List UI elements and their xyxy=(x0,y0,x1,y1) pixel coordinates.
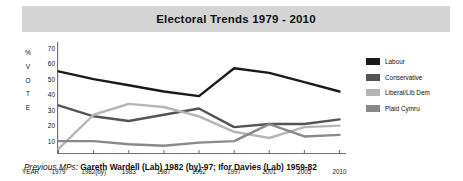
page-title: Electoral Trends 1979 - 2010 xyxy=(156,13,316,25)
legend-label: Plaid Cymru xyxy=(385,105,420,112)
plot-area xyxy=(57,42,346,162)
x-tick-label: 2010 xyxy=(332,168,346,176)
axis-lines xyxy=(57,42,346,154)
y-axis-caption-letter: O xyxy=(22,74,34,88)
y-axis-caption-letter: T xyxy=(22,87,34,101)
y-tick-label: 50 xyxy=(48,76,55,83)
legend-swatch xyxy=(366,74,380,81)
legend-swatch xyxy=(366,89,380,96)
y-axis-caption: %VOTE xyxy=(22,46,34,115)
series-line-plaid-cymru xyxy=(59,124,340,146)
chart-legend: LabourConservativeLiberal/Lib DemPlaid C… xyxy=(366,54,462,116)
y-tick-label: 20 xyxy=(48,122,55,129)
y-tick-label: 30 xyxy=(48,107,55,114)
legend-item: Conservative xyxy=(366,70,462,86)
y-axis-caption-letter: V xyxy=(22,60,34,74)
series-line-labour xyxy=(59,68,340,96)
legend-swatch xyxy=(366,58,380,65)
footnote: Previous MPs: Gareth Wardell (Lab) 1982 … xyxy=(24,162,317,172)
legend-swatch xyxy=(366,105,380,112)
legend-item: Plaid Cymru xyxy=(366,101,462,117)
y-tick-label: 40 xyxy=(48,91,55,98)
y-axis-caption-letter: E xyxy=(22,101,34,115)
y-axis-caption-letter: % xyxy=(22,46,34,60)
footnote-body: Gareth Wardell (Lab) 1982 (by)-97; Ifor … xyxy=(80,162,317,172)
legend-label: Labour xyxy=(385,58,405,65)
footnote-lead: Previous MPs: xyxy=(24,162,78,172)
line-chart-svg xyxy=(57,42,346,162)
screenshot-root: Electoral Trends 1979 - 2010 %VOTE 10203… xyxy=(0,0,463,181)
legend-item: Liberal/Lib Dem xyxy=(366,85,462,101)
legend-item: Labour xyxy=(366,54,462,70)
series-lines xyxy=(59,68,340,149)
y-tick-label: 70 xyxy=(48,45,55,52)
y-tick-label: 60 xyxy=(48,60,55,67)
y-tick-label: 10 xyxy=(48,138,55,145)
legend-label: Liberal/Lib Dem xyxy=(385,89,430,96)
chart-title-band: Electoral Trends 1979 - 2010 xyxy=(22,6,450,32)
legend-label: Conservative xyxy=(385,74,422,81)
